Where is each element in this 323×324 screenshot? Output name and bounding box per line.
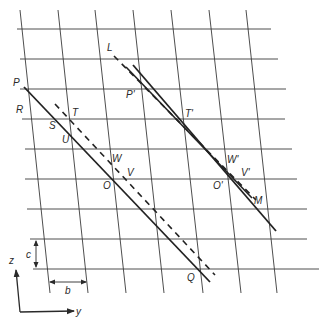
label-s: S [49,120,56,131]
label-c: c [26,249,31,260]
label-l: L [107,42,113,53]
diagram-canvas: P R S T U W V O Q L P' T' W' V' O' M c b… [0,0,323,324]
y-axis-arrow [20,311,74,312]
label-y-axis: y [75,306,82,317]
label-w: W [112,153,123,164]
label-v: V [127,167,135,178]
z-axis-arrow [16,270,20,312]
label-r: R [16,104,23,115]
label-b: b [65,285,71,296]
line-pq-solid [24,87,210,282]
label-t: T [72,107,79,118]
grid-slanted-lines [20,10,277,293]
label-o-prime: O' [213,180,224,191]
grid-horizontal-lines [17,29,319,269]
label-t-prime: T' [185,108,194,119]
label-p: P [13,77,20,88]
label-o: O [103,180,111,191]
label-u: U [62,134,70,145]
label-p-prime: P' [126,89,136,100]
label-m: M [254,195,263,206]
label-q: Q [187,272,195,283]
lattice-diagram: P R S T U W V O Q L P' T' W' V' O' M c b… [0,0,323,324]
label-z-axis: z [8,255,14,266]
line-group-lm [114,56,276,231]
label-v-prime: V' [241,167,251,178]
label-w-prime: W' [227,154,239,165]
line-upper-solid [126,67,252,198]
